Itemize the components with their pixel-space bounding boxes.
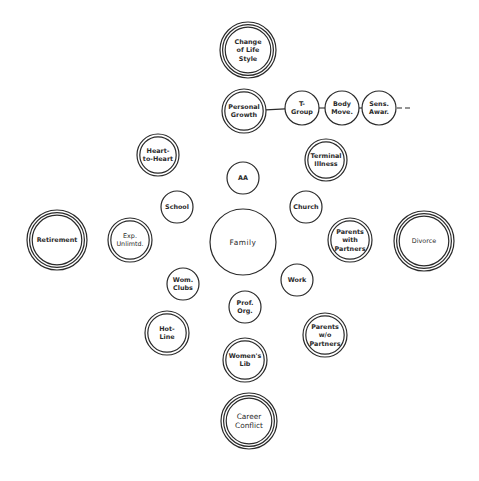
node-label: Work	[288, 276, 307, 284]
node-label: Style	[239, 55, 258, 63]
node-church: Church	[290, 191, 322, 223]
node-label: Group	[291, 108, 313, 116]
node-work: Work	[281, 264, 313, 296]
node-label: Hot-	[159, 325, 175, 333]
node-label: Awar.	[369, 108, 389, 116]
node-school: School	[161, 191, 193, 223]
connector-personal-growth-t-group	[266, 109, 285, 110]
node-family: Family	[210, 209, 276, 275]
node-label: Retirement	[37, 236, 78, 244]
node-t-group: T-Group	[285, 91, 319, 125]
node-label: Prof.	[236, 299, 253, 307]
node-label: Divorce	[412, 237, 436, 245]
node-prof-org: Prof.Org.	[229, 291, 261, 323]
node-label: Lib	[240, 360, 251, 368]
node-divorce: Divorce	[394, 211, 454, 271]
node-label: Growth	[231, 111, 258, 119]
node-label: Conflict	[235, 421, 263, 430]
node-label: w/o	[319, 331, 332, 339]
node-womens-lib: Women'sLib	[223, 338, 267, 382]
node-label: Unlimtd.	[116, 240, 143, 248]
node-label: Church	[293, 203, 319, 211]
node-label: AA	[238, 174, 248, 182]
node-label: to-Heart	[143, 155, 173, 163]
node-terminal-illness: TerminalIllness	[305, 139, 347, 181]
node-label: Women's	[229, 352, 262, 360]
node-label: Exp.	[123, 232, 137, 240]
node-label: Partners	[335, 245, 366, 253]
node-label: Heart-	[147, 147, 170, 155]
node-label: with	[342, 236, 358, 244]
node-label: Illness	[314, 160, 337, 168]
node-personal-growth: PersonalGrowth	[222, 89, 266, 133]
node-label: Family	[230, 238, 257, 247]
node-label: School	[165, 203, 189, 211]
node-sens-awar: Sens.Awar.	[362, 91, 396, 125]
node-label: Move.	[331, 108, 353, 116]
node-label: Body	[333, 100, 352, 108]
node-label: Partners	[310, 340, 341, 348]
node-hot-line: Hot-Line	[145, 311, 189, 355]
node-label: of Life	[237, 46, 260, 54]
node-body-move: BodyMove.	[325, 91, 359, 125]
node-change-of-life-style: Changeof LifeStyle	[220, 22, 276, 78]
node-aa: AA	[227, 162, 259, 194]
node-label: T-	[299, 100, 305, 108]
node-label: Wom.	[173, 276, 193, 284]
node-label: Sens.	[369, 100, 389, 108]
node-label: Clubs	[173, 284, 193, 292]
node-heart-to-heart: Heart-to-Heart	[137, 134, 179, 176]
node-label: Parents	[311, 323, 339, 331]
node-exp-unlimtd: Exp.Unlimtd.	[108, 218, 152, 262]
node-label: Change	[234, 38, 262, 46]
node-retirement: Retirement	[27, 210, 87, 270]
node-label: Org.	[237, 307, 253, 315]
node-parents-with-partners: ParentswithPartners	[328, 218, 372, 262]
node-label: Personal	[228, 103, 259, 111]
diagram-canvas: Changeof LifeStylePersonalGrowthT-GroupB…	[0, 0, 479, 481]
node-layer: Changeof LifeStylePersonalGrowthT-GroupB…	[27, 22, 454, 449]
node-label: Parents	[336, 228, 364, 236]
node-career-conflict: CareerConflict	[221, 393, 277, 449]
node-label: Line	[159, 333, 175, 341]
node-parents-wo-partners: Parentsw/oPartners	[303, 313, 347, 357]
node-wom-clubs: Wom.Clubs	[167, 268, 199, 300]
node-label: Terminal	[311, 152, 342, 160]
